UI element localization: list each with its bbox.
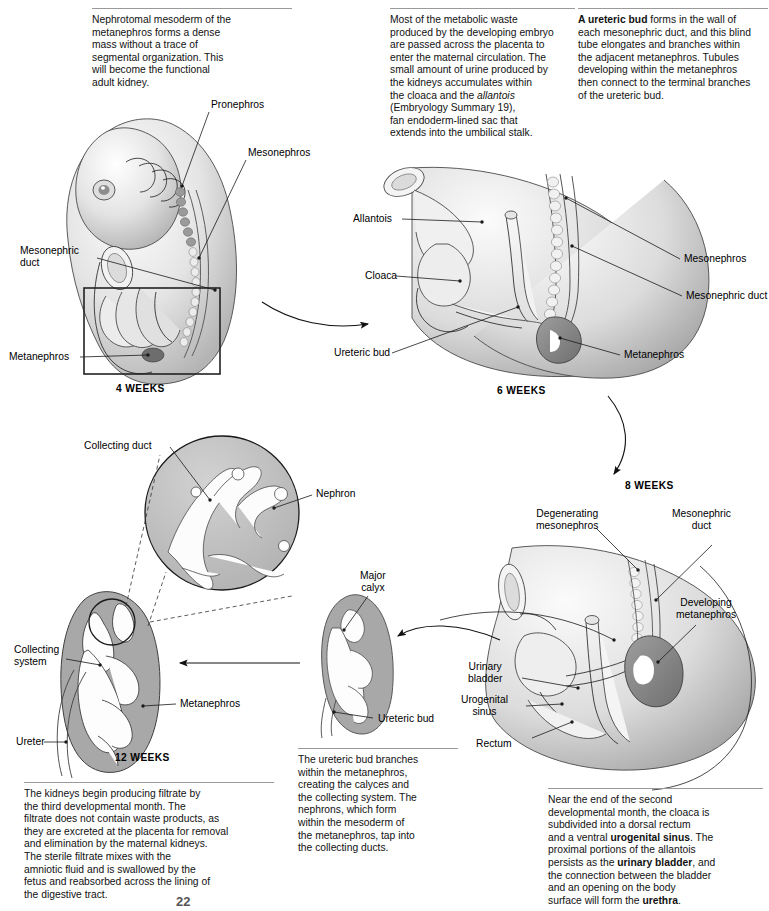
kidney-12-weeks-art <box>44 592 176 778</box>
label-metanephros-embryo: Metanephros <box>9 351 69 363</box>
label-metanephros-12w: Metanephros <box>180 698 240 710</box>
urinary-bladder-bold: urinary bladder <box>617 857 692 868</box>
label-cloaca: Cloaca <box>365 270 397 282</box>
arrow-6-to-8-weeks <box>608 396 625 474</box>
label-pronephros: Pronephros <box>211 99 264 111</box>
label-allantois: Allantois <box>353 213 392 225</box>
nephron-magnified-art <box>126 436 312 626</box>
caption-metabolic-waste: Most of the metabolic waste produced by … <box>390 8 575 140</box>
stage-8-weeks: 8 WEEKS <box>625 480 674 491</box>
pelvis-8-weeks-art <box>440 528 755 790</box>
label-urogenital-sinus: Urogenital sinus <box>461 694 508 718</box>
caption-metabolic-waste-part1: Most of the metabolic waste produced by … <box>390 14 554 101</box>
urethra-bold: urethra <box>642 895 677 906</box>
caption-metanephros: Nephrotomal mesoderm of the metanephros … <box>92 8 292 90</box>
label-collecting-duct: Collecting duct <box>84 440 152 452</box>
caption-cloaca-subdivision: Near the end of the second developmental… <box>548 788 763 907</box>
caption-ureteric-bud-rest: forms in the wall of each mesonephric du… <box>578 14 751 101</box>
label-major-calyx: Major calyx <box>360 570 386 594</box>
label-ureteric-bud-kidney: Ureteric bud <box>378 713 434 725</box>
label-mesonephros-embryo: Mesonephros <box>248 147 310 159</box>
label-mesonephric-duct-embryo: Mesonephric duct <box>20 245 79 269</box>
label-degenerating-mesonephros: Degenerating mesonephros <box>536 508 598 532</box>
caption-12-weeks: The kidneys begin producing filtrate by … <box>24 782 274 901</box>
label-ureter: Ureter <box>16 736 45 748</box>
stage-4-weeks: 4 WEEKS <box>116 383 165 394</box>
label-mesonephros-6w: Mesonephros <box>684 253 746 265</box>
embryo-4-weeks-art <box>67 112 246 384</box>
stage-6-weeks: 6 WEEKS <box>497 385 546 396</box>
label-metanephros-6w: Metanephros <box>624 349 684 361</box>
label-nephron: Nephron <box>316 488 356 500</box>
label-mesonephric-duct-6w: Mesonephric duct <box>686 290 767 302</box>
arrow-8-weeks-to-kidney <box>398 626 500 640</box>
urogenital-sinus-bold: urogenital sinus <box>610 832 690 843</box>
label-ureteric-bud-6w: Ureteric bud <box>334 347 390 359</box>
pelvis-6-weeks-art <box>380 162 709 378</box>
page-number: 22 <box>176 894 190 909</box>
label-urinary-bladder: Urinary bladder <box>468 661 502 685</box>
caption-allantois-italic: allantois <box>477 90 515 101</box>
figure-page: Nephrotomal mesoderm of the metanephros … <box>0 0 769 911</box>
arrow-4-to-6-weeks <box>262 302 368 326</box>
caption-metabolic-waste-part2: (Embryology Summary 19), fan endoderm-li… <box>390 102 533 138</box>
label-collecting-system: Collecting system <box>14 644 59 668</box>
label-mesonephric-duct-8w: Mesonephric duct <box>672 508 731 532</box>
caption-ureteric-bud: A ureteric bud forms in the wall of each… <box>578 8 768 102</box>
stage-12-weeks: 12 WEEKS <box>115 752 170 763</box>
caption-ureteric-bud-bold: A ureteric bud <box>578 14 647 25</box>
caption-ureteric-branching: The ureteric bud branches within the met… <box>298 748 458 855</box>
cloaca-text-d: . <box>678 895 681 906</box>
label-rectum: Rectum <box>476 738 511 750</box>
label-developing-metanephros: Developing metanephros <box>676 597 736 621</box>
